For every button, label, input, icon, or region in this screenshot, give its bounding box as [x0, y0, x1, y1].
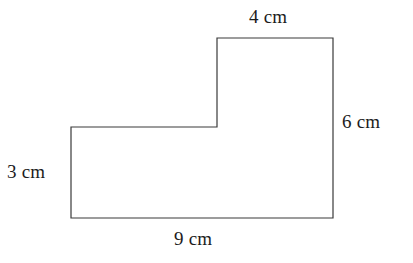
- dimension-label-left: 3 cm: [7, 162, 45, 182]
- dimension-label-top: 4 cm: [249, 7, 287, 27]
- dimension-label-right: 6 cm: [342, 112, 380, 132]
- figure-canvas: 4 cm 6 cm 3 cm 9 cm: [0, 0, 413, 263]
- dimension-label-bottom: 9 cm: [174, 229, 212, 249]
- l-shape-outline: [71, 38, 333, 218]
